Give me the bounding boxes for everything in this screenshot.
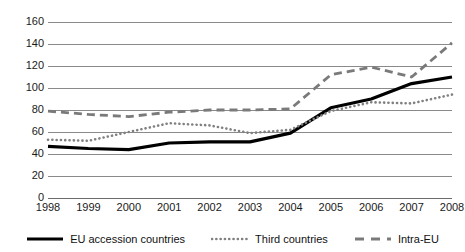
series-line-eu-accession-countries [48, 77, 452, 150]
legend-item[interactable]: EU accession countries [26, 234, 185, 245]
y-axis-tick-label: 120 [0, 60, 44, 71]
x-axis: 1998199920002001200220032004200520062007… [48, 202, 452, 220]
legend-item-label: Third countries [255, 234, 328, 245]
y-axis: 020406080100120140160 [0, 22, 44, 198]
x-axis-tick-label: 2000 [117, 202, 141, 213]
dotted-line-swatch [211, 234, 249, 244]
plot-area [48, 22, 452, 198]
legend-item-label: Intra-EU [398, 234, 439, 245]
x-axis-tick-label: 2008 [440, 202, 464, 213]
y-axis-tick-label: 20 [0, 170, 44, 181]
x-axis-tick-label: 1998 [36, 202, 60, 213]
x-axis-tick-label: 2004 [278, 202, 302, 213]
legend-item-label: EU accession countries [70, 234, 185, 245]
legend-item[interactable]: Intra-EU [354, 234, 439, 245]
y-axis-tick-label: 100 [0, 82, 44, 93]
x-axis-tick-label: 2006 [359, 202, 383, 213]
x-axis-tick-label: 2001 [157, 202, 181, 213]
line-chart: 020406080100120140160 199819992000200120… [0, 0, 465, 252]
y-axis-tick-label: 140 [0, 38, 44, 49]
series-line-intra-eu [48, 43, 452, 117]
x-axis-tick-label: 1999 [76, 202, 100, 213]
y-axis-tick-label: 80 [0, 104, 44, 115]
x-axis-tick-label: 2002 [197, 202, 221, 213]
solid-line-swatch [26, 234, 64, 244]
chart-legend: EU accession countriesThird countriesInt… [0, 228, 465, 250]
y-axis-tick-label: 40 [0, 148, 44, 159]
x-axis-tick-label: 2005 [319, 202, 343, 213]
y-axis-tick-label: 60 [0, 126, 44, 137]
series-layer [48, 22, 452, 198]
x-axis-tick-label: 2007 [399, 202, 423, 213]
legend-item[interactable]: Third countries [211, 234, 328, 245]
dashed-line-swatch [354, 234, 392, 244]
x-axis-tick-label: 2003 [238, 202, 262, 213]
y-axis-tick-label: 160 [0, 16, 44, 27]
x-axis-line [48, 198, 452, 199]
series-line-third-countries [48, 95, 452, 141]
